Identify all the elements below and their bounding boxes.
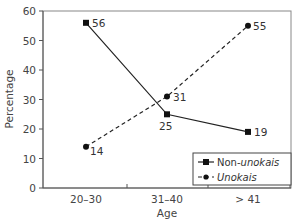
x-tick-label: 20–30: [70, 193, 102, 205]
y-tick-label: 20: [23, 123, 36, 135]
x-axis-title: Age: [157, 207, 177, 219]
square-marker: [245, 129, 251, 135]
x-tick-label: 31–40: [151, 193, 183, 205]
legend-label: Non-unokais: [217, 157, 279, 168]
y-ticks: [39, 11, 43, 188]
y-tick-label: 60: [23, 5, 36, 17]
y-axis-title: Percentage: [3, 69, 15, 128]
square-marker: [83, 20, 89, 26]
x-tick-label: > 41: [235, 193, 261, 205]
y-tick-label: 10: [23, 153, 36, 165]
square-marker-icon: [203, 159, 209, 165]
circle-marker: [83, 144, 89, 150]
line-chart: 0 10 20 30 40 50 60 20–30 31–40 > 41 Age…: [0, 0, 296, 224]
y-tick-label: 30: [23, 94, 36, 106]
data-label: 31: [173, 91, 186, 103]
square-marker: [164, 111, 170, 117]
legend: Non-unokais Unokais: [193, 153, 291, 185]
data-label: 19: [254, 126, 267, 138]
circle-marker: [164, 94, 170, 100]
data-label: 25: [159, 120, 172, 132]
y-tick-label: 50: [23, 35, 36, 47]
legend-label: Unokais: [217, 172, 257, 183]
x-tick-labels: 20–30 31–40 > 41: [70, 193, 261, 205]
y-tick-label: 0: [29, 182, 36, 194]
circle-marker-icon: [203, 174, 208, 179]
data-label: 14: [90, 145, 104, 157]
data-label: 55: [253, 20, 266, 32]
data-label: 56: [92, 17, 106, 29]
y-tick-label: 40: [23, 64, 36, 76]
series-unokais: 14 31 55: [83, 20, 266, 157]
y-tick-labels: 0 10 20 30 40 50 60: [23, 5, 36, 194]
circle-marker: [245, 23, 251, 29]
series-non-unokais: 56 25 19: [83, 17, 267, 138]
